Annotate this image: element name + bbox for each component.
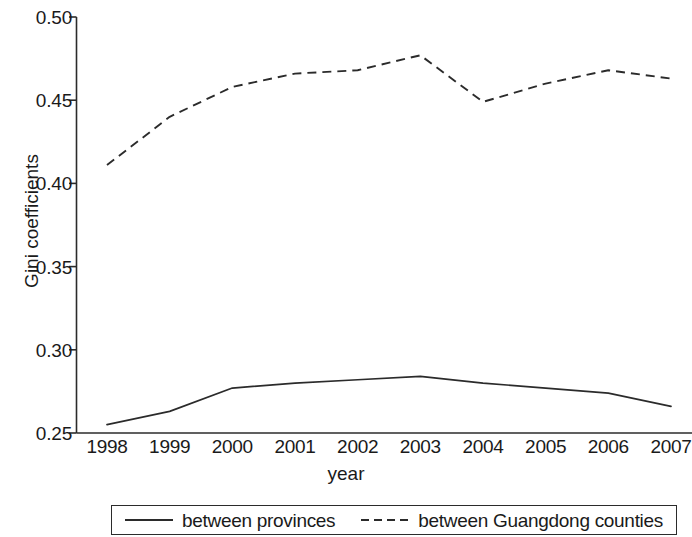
x-axis-tick-label: 2001 <box>260 437 330 457</box>
y-axis-title: Gini coefficients <box>21 101 43 341</box>
legend-solid-line-icon <box>125 518 173 522</box>
x-axis-tick-label: 1999 <box>135 437 205 457</box>
y-axis-tick-label: 0.50 <box>14 8 72 27</box>
legend-dashed-line-icon <box>361 518 409 522</box>
x-axis-tick-label: 2006 <box>573 437 643 457</box>
y-axis-tick-label: 0.30 <box>14 341 72 360</box>
gini-coefficients-line-chart: 0.500.450.400.350.300.25 199819992000200… <box>0 0 692 537</box>
legend-label-between-guangdong-counties: between Guangdong counties <box>418 511 663 530</box>
legend-item-between-provinces: between provinces <box>125 511 335 530</box>
legend-item-between-guangdong-counties: between Guangdong counties <box>361 511 663 530</box>
x-axis-tick-label: 2000 <box>197 437 267 457</box>
series-line-between-guangdong-counties <box>107 55 671 165</box>
x-axis-tick-label: 2003 <box>385 437 455 457</box>
y-axis-tick-label: 0.25 <box>14 424 72 443</box>
legend-label-between-provinces: between provinces <box>182 511 335 530</box>
x-axis-tick-label: 2004 <box>448 437 518 457</box>
chart-legend: between provinces between Guangdong coun… <box>111 505 677 535</box>
series-line-between-provinces <box>107 376 671 424</box>
x-axis-tick-label: 1998 <box>72 437 142 457</box>
x-axis-tick-label: 2002 <box>323 437 393 457</box>
x-axis-tick-label: 2007 <box>636 437 692 457</box>
x-axis-title: year <box>0 463 692 485</box>
x-axis-tick-label: 2005 <box>511 437 581 457</box>
